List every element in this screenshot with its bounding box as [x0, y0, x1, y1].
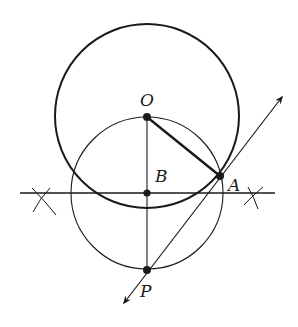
- label-b: B: [154, 166, 168, 186]
- point-p: [143, 266, 151, 274]
- diagram-canvas: O B A P: [0, 0, 298, 327]
- arc-mark-right-2: [248, 187, 258, 209]
- point-a: [216, 172, 224, 180]
- arc-mark-right-1: [244, 187, 263, 205]
- point-b: [143, 189, 150, 196]
- label-p: P: [139, 281, 152, 301]
- label-o: O: [140, 90, 154, 110]
- arc-mark-left-2: [32, 188, 56, 215]
- point-o: [143, 113, 151, 121]
- label-a: A: [226, 175, 240, 195]
